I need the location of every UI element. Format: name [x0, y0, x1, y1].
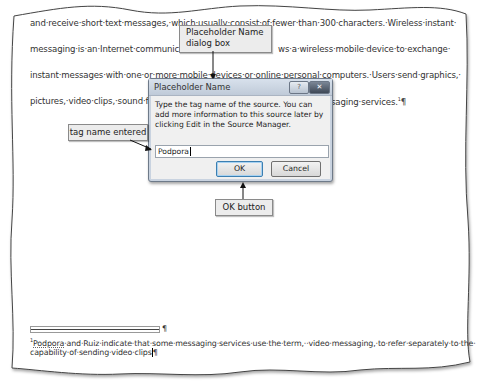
callout-arrows — [0, 0, 481, 387]
